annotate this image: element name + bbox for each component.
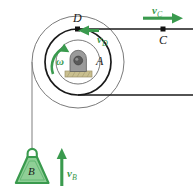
label-point-c: C [159, 34, 167, 46]
velocity-b-subscript: B [72, 173, 77, 182]
diagram-canvas [0, 0, 193, 191]
physics-pulley-diagram: A D C B ω vC vD vB [0, 0, 193, 191]
label-omega: ω [56, 56, 64, 67]
label-velocity-d: vD [97, 34, 108, 48]
velocity-c-arrow [143, 13, 183, 23]
velocity-c-subscript: C [157, 10, 162, 19]
label-velocity-b: vB [67, 168, 77, 182]
velocity-b-arrow [57, 148, 67, 186]
label-weight-b: B [28, 166, 35, 177]
shaft-hole-highlight [75, 58, 78, 61]
bearing-assembly [65, 50, 92, 77]
label-point-d: D [73, 12, 82, 24]
velocity-d-subscript: D [102, 39, 108, 48]
point-c-marker [161, 27, 166, 32]
shaft-hole [74, 56, 83, 65]
label-pulley-a: A [96, 55, 103, 67]
label-velocity-c: vC [152, 5, 162, 19]
